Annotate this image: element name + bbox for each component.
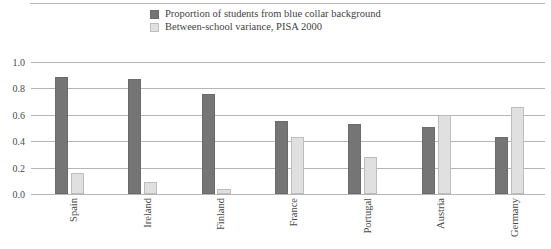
y-axis-tick-label: 0.6: [13, 109, 26, 120]
y-axis-tick-label: 1.0: [13, 57, 26, 68]
top-divider-rule: [30, 3, 545, 4]
bars-layer: [31, 62, 545, 194]
x-axis-label-ireland: Ireland: [143, 198, 153, 228]
bar-austria-series-1: [422, 127, 435, 194]
gridline: 0.0: [31, 194, 545, 195]
bar-germany-series-2: [511, 107, 524, 194]
x-axis-label-portugal: Portugal: [363, 198, 373, 234]
bar-group: [202, 62, 231, 194]
legend-swatch-light-icon: [150, 23, 159, 32]
bar-germany-series-1: [495, 137, 508, 194]
legend-label-dark: Proportion of students from blue collar …: [165, 8, 381, 20]
x-axis-label-finland: Finland: [216, 198, 226, 230]
bar-spain-series-1: [55, 77, 68, 194]
bar-group: [422, 62, 451, 194]
bar-france-series-2: [291, 137, 304, 194]
bar-group: [275, 62, 304, 194]
bar-group: [128, 62, 157, 194]
plot-area: 1.00.80.60.40.20.0: [31, 62, 545, 194]
x-axis-category-labels: SpainIrelandFinlandFrancePortugalAustria…: [31, 196, 545, 249]
bar-portugal-series-1: [348, 124, 361, 194]
x-axis-label-spain: Spain: [69, 198, 79, 222]
bar-ireland-series-2: [144, 182, 157, 194]
bar-group: [495, 62, 524, 194]
bar-finland-series-2: [217, 189, 230, 194]
bar-portugal-series-2: [364, 157, 377, 194]
y-axis-tick-label: 0.4: [13, 136, 26, 147]
bar-france-series-1: [275, 121, 288, 194]
x-axis-label-germany: Germany: [510, 198, 520, 237]
x-axis-label-france: France: [289, 198, 299, 227]
legend-label-light: Between-school variance, PISA 2000: [165, 21, 322, 33]
bar-ireland-series-1: [128, 79, 141, 194]
bar-group: [55, 62, 84, 194]
legend-item-dark: Proportion of students from blue collar …: [150, 8, 381, 20]
legend-item-light: Between-school variance, PISA 2000: [150, 21, 381, 33]
y-axis-tick-label: 0.0: [13, 189, 26, 200]
bar-finland-series-1: [202, 94, 215, 194]
legend-swatch-dark-icon: [150, 10, 159, 19]
bar-chart-figure: Proportion of students from blue collar …: [0, 0, 551, 249]
bar-austria-series-2: [438, 115, 451, 194]
bar-group: [348, 62, 377, 194]
chart-legend: Proportion of students from blue collar …: [150, 8, 381, 34]
bar-spain-series-2: [71, 173, 84, 194]
y-axis-tick-label: 0.2: [13, 162, 26, 173]
x-axis-label-austria: Austria: [436, 198, 446, 229]
y-axis-tick-label: 0.8: [13, 83, 26, 94]
